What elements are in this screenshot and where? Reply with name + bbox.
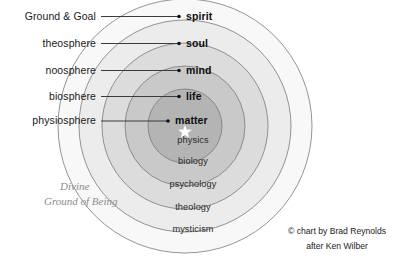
discipline-label-psychology: psychology bbox=[170, 179, 217, 189]
discipline-label-theology: theology bbox=[175, 202, 211, 212]
discipline-label-physics: physics bbox=[177, 135, 209, 145]
sphere-label-noosphere: noosphere bbox=[45, 64, 96, 76]
level-label-spirit: spirit bbox=[186, 10, 213, 22]
credit-line-1: © chart by Brad Reynolds bbox=[288, 226, 386, 236]
divine-ground-line-1: Divine bbox=[59, 180, 89, 192]
sphere-label-physiosphere: physiosphere bbox=[32, 114, 96, 126]
sphere-label-theosphere: theosphere bbox=[42, 37, 96, 49]
leader-dot bbox=[177, 95, 181, 99]
level-label-life: life bbox=[186, 90, 202, 102]
leader-dot bbox=[177, 42, 181, 46]
sphere-label-biosphere: biosphere bbox=[49, 90, 96, 102]
discipline-label-mysticism: mysticism bbox=[172, 224, 213, 234]
leader-dot bbox=[166, 119, 170, 123]
credit-line-2: after Ken Wilber bbox=[306, 241, 368, 251]
great-nest-of-being-diagram: Ground & Goal theosphere noosphere biosp… bbox=[0, 0, 403, 263]
level-label-mind: mind bbox=[186, 64, 211, 76]
level-label-matter: matter bbox=[175, 114, 208, 126]
discipline-label-biology: biology bbox=[178, 156, 208, 166]
chart-canvas: Ground & Goal theosphere noosphere biosp… bbox=[0, 0, 403, 263]
credit-caption: © chart by Brad Reynolds after Ken Wilbe… bbox=[288, 226, 386, 251]
sphere-label-ground-and-goal: Ground & Goal bbox=[25, 10, 96, 22]
divine-ground-line-2: Ground of Being bbox=[44, 195, 118, 207]
level-label-soul: soul bbox=[186, 37, 208, 49]
leader-dot bbox=[177, 15, 181, 19]
leader-dot bbox=[177, 69, 181, 73]
